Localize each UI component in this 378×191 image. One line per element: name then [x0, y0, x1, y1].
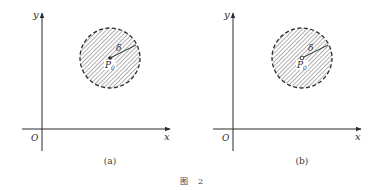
panel-b: y x O δ P0 (b): [213, 9, 361, 166]
panel-label-b: (b): [296, 156, 309, 166]
y-axis-label: y: [223, 9, 230, 20]
caption-prefix: 图: [180, 177, 188, 186]
panel-a: y x O δ P0 (a): [22, 9, 170, 166]
figure-2: y x O δ P0 (a) y x O δ P0 (b) 图 2: [0, 0, 378, 191]
x-axis-label: x: [355, 131, 361, 142]
origin-label: O: [222, 133, 230, 143]
caption-number: 2: [198, 177, 203, 186]
figure-caption: 图 2: [180, 177, 203, 186]
radius-label: δ: [308, 43, 313, 53]
origin-label: O: [31, 133, 39, 143]
y-axis-label: y: [32, 9, 39, 20]
x-axis-label: x: [164, 131, 170, 142]
radius-label: δ: [116, 43, 121, 53]
panel-label-a: (a): [104, 156, 116, 166]
